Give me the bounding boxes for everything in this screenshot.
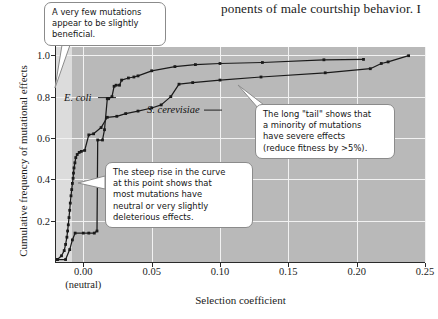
- figure-root: ponents of male courtship behavior. I E.…: [0, 0, 438, 319]
- callout-line: deleterious effects.: [113, 212, 246, 223]
- callout-line: The steep rise in the curve: [113, 167, 246, 178]
- callout-line: have severe effects: [263, 131, 388, 142]
- callout-line: a minority of mutations: [263, 120, 388, 131]
- callout-line: (reduce fitness by >5%).: [263, 143, 388, 154]
- callout-line: A very few mutations: [52, 7, 159, 18]
- callout-leader-long-tail: [0, 0, 438, 319]
- callout-line: neutral or very slightly: [113, 201, 246, 212]
- callout-line: The long "tail" shows that: [263, 109, 388, 120]
- callout-line: appear to be slightly: [52, 18, 159, 29]
- callout-steep-rise: The steep rise in the curveat this point…: [105, 162, 253, 228]
- callout-line: at this point shows that: [113, 178, 246, 189]
- callout-long-tail: The long "tail" shows thata minority of …: [255, 104, 395, 159]
- callout-line: beneficial.: [52, 29, 159, 40]
- callout-beneficial: A very few mutationsappear to be slightl…: [44, 2, 166, 46]
- callout-line: most mutations have: [113, 189, 246, 200]
